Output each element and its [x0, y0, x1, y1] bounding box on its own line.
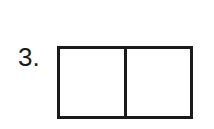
rectangle-part-2: [124, 49, 191, 116]
problem-number: 3.: [18, 44, 40, 70]
rectangle-part-1: [60, 49, 124, 116]
divided-rectangle: [57, 46, 193, 119]
